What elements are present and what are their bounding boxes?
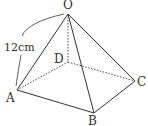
vertex-label-D: D	[54, 52, 64, 66]
vertex-label-A: A	[5, 91, 15, 105]
vertex-label-O: O	[63, 0, 73, 12]
measurement-arc	[22, 14, 64, 36]
edge-AD	[17, 62, 68, 90]
vertex-label-C: C	[137, 75, 146, 89]
edge-AB	[17, 90, 94, 113]
edge-BC	[94, 81, 135, 113]
edge-OC	[68, 14, 135, 81]
measurement-label: 12cm	[4, 41, 35, 54]
pyramid-diagram: 12cm O A B C D	[0, 0, 148, 126]
measurement-arc-lower	[16, 55, 21, 86]
vertex-label-B: B	[88, 114, 97, 126]
